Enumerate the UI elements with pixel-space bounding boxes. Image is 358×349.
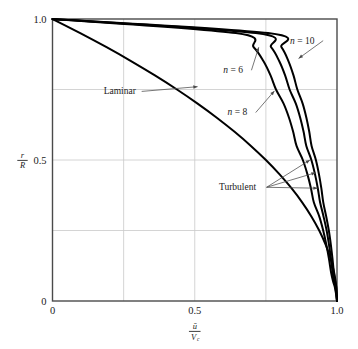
xtick-label: 0.5 [188, 305, 201, 316]
chart-background [0, 0, 358, 349]
label-turbulent: Turbulent [219, 182, 256, 192]
velocity-profile-chart: Laminarn= 6n= 8n= 10Turbulent 00.51.000.… [0, 0, 358, 349]
ytick-label: 1.0 [33, 14, 46, 25]
ytick-label: 0.5 [33, 155, 46, 166]
label-n-10: n= 10 [290, 36, 315, 46]
figure-container: Laminarn= 6n= 8n= 10Turbulent 00.51.000.… [0, 0, 358, 349]
ylabel-denominator: R [19, 160, 26, 170]
xtick-label: 0 [50, 305, 55, 316]
ytick-label: 0 [41, 296, 46, 307]
xtick-label: 1.0 [330, 305, 343, 316]
label-n-8: n= 8 [227, 107, 247, 117]
label-n-6: n= 6 [223, 65, 243, 75]
label-laminar: Laminar [104, 86, 137, 96]
xlabel-numerator: ū [193, 321, 197, 331]
